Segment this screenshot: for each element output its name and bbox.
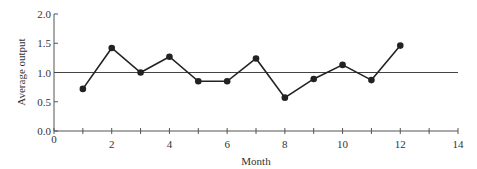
data-point-marker (195, 78, 202, 85)
data-point-marker (397, 42, 404, 49)
data-point-marker (166, 53, 173, 60)
x-tick-label: 8 (282, 138, 288, 150)
x-axis-title: Month (241, 155, 271, 167)
y-tick-label: 1.5 (37, 37, 51, 49)
data-point-marker (224, 78, 231, 85)
data-point-marker (137, 69, 144, 76)
data-point-marker (80, 86, 87, 93)
series-line (83, 46, 400, 98)
x-tick-label: 0 (51, 133, 57, 145)
data-point-marker (368, 77, 375, 84)
data-point-marker (108, 45, 115, 52)
x-tick-label: 14 (453, 138, 465, 150)
y-tick-label: 1.0 (37, 67, 51, 79)
y-tick-label: 0.5 (37, 96, 51, 108)
y-axis-title: Average output (15, 38, 27, 105)
x-tick-label: 10 (337, 138, 349, 150)
x-tick-label: 4 (167, 138, 173, 150)
data-point-marker (282, 94, 289, 101)
data-point-marker (253, 55, 260, 62)
data-point-marker (339, 62, 346, 69)
y-tick-label: 0.0 (37, 125, 51, 137)
x-tick-label: 12 (395, 138, 406, 150)
line-chart: 024681012140.00.51.01.52.0 Month Average… (0, 0, 477, 169)
data-series (80, 42, 404, 101)
data-point-marker (310, 76, 317, 83)
x-tick-label: 6 (224, 138, 230, 150)
x-tick-label: 2 (109, 138, 115, 150)
y-tick-label: 2.0 (37, 8, 51, 20)
axes: 024681012140.00.51.01.52.0 (37, 8, 464, 150)
